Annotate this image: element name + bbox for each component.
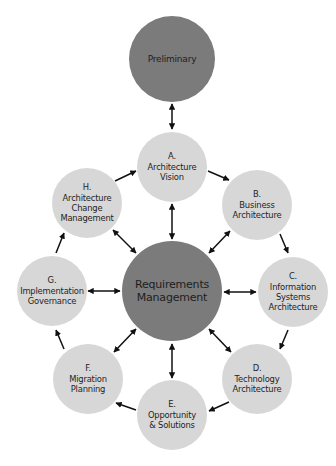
node-label: G. <box>48 275 57 285</box>
node-label: F. <box>85 363 91 373</box>
arrow-center-h <box>113 230 136 253</box>
node-h-architecture-change-management: H. Architecture Change Management <box>52 168 122 238</box>
arrow-center-f <box>114 329 136 352</box>
node-label: H. <box>83 182 91 192</box>
node-label: Planning <box>71 384 105 394</box>
arrow-b-c <box>280 234 288 253</box>
node-label: Preliminary <box>148 54 197 64</box>
node-label: Technology <box>235 374 280 384</box>
node-label: B. <box>253 189 261 199</box>
node-a-architecture-vision: A. Architecture Vision <box>137 132 207 202</box>
arrow-e-f <box>116 403 136 410</box>
arrow-a-b <box>208 171 229 180</box>
node-label: D. <box>253 363 262 373</box>
arrow-c-d <box>280 330 288 349</box>
node-label: Change <box>72 203 103 213</box>
node-label: A. <box>168 151 176 161</box>
arrow-center-b <box>209 231 230 253</box>
node-label: Opportunity <box>148 410 196 420</box>
arrow-center-d <box>209 329 231 352</box>
node-label: Implementation <box>20 286 84 296</box>
node-e-opportunity-solutions: E. Opportunity & Solutions <box>137 380 207 450</box>
node-preliminary: Preliminary <box>129 16 215 102</box>
node-label: Management <box>60 213 113 223</box>
node-f-migration-planning: F. Migration Planning <box>53 344 123 414</box>
node-label: Vision <box>160 172 184 182</box>
node-b-business-architecture: B. Business Architecture <box>222 170 292 240</box>
node-label: Management <box>137 291 207 304</box>
node-label: Migration <box>69 374 107 384</box>
node-g-implementation-governance: G. Implementation Governance <box>17 256 87 326</box>
node-label: Architecture <box>269 302 318 312</box>
node-requirements-management: Requirements Management <box>122 241 222 341</box>
node-label: C. <box>289 271 297 281</box>
node-label: Information <box>270 282 316 292</box>
arrow-h-a <box>115 171 136 181</box>
node-label: Systems <box>276 292 310 302</box>
node-d-technology-architecture: D. Technology Architecture <box>222 344 292 414</box>
node-label: Architecture <box>233 384 282 394</box>
node-label: E. <box>168 399 176 409</box>
node-label: Business <box>239 200 274 210</box>
arrow-g-h <box>56 233 64 253</box>
node-label: Architecture <box>233 210 282 220</box>
node-label: Architecture <box>148 162 197 172</box>
node-label: Requirements <box>135 278 209 291</box>
arrow-f-g <box>56 330 64 349</box>
node-label: & Solutions <box>149 420 194 430</box>
arrow-d-e <box>209 402 229 411</box>
node-c-information-systems-architecture: C. Information Systems Architecture <box>258 257 328 327</box>
node-label: Architecture <box>63 193 112 203</box>
node-label: Governance <box>28 296 77 306</box>
adm-cycle-diagram: Preliminary Requirements Management A. A… <box>0 0 336 466</box>
